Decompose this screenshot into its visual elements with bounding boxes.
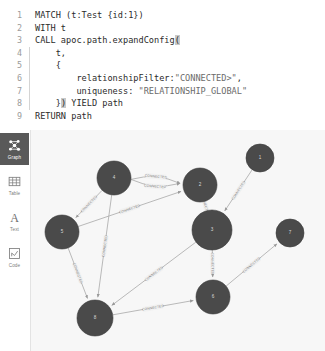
line-number: 5: [0, 59, 29, 72]
node-label: 4: [113, 175, 116, 180]
line-number: 3: [0, 34, 29, 47]
line-number: 1: [0, 9, 29, 22]
nodes-layer: 42135768: [45, 144, 304, 336]
line-number: 8: [0, 97, 29, 110]
code-token: }: [35, 98, 61, 108]
view-mode-sidebar: GraphTableATextCode: [0, 130, 31, 351]
node-label: 2: [199, 182, 202, 187]
graph-node[interactable]: 5: [45, 215, 79, 249]
graph-node[interactable]: 3: [192, 210, 232, 250]
sidebar-item-label: Code: [9, 263, 20, 268]
edge-label-group[interactable]: CONNECTED: [210, 252, 216, 275]
code-lines: 1MATCH (t:Test {id:1})2WITH t3CALL apoc.…: [0, 9, 325, 122]
edges-layer: [68, 170, 277, 315]
sidebar-item-table[interactable]: Table: [0, 169, 29, 201]
code-icon: [8, 247, 21, 261]
graph-visualization-canvas[interactable]: CONNECTEDCONNECTEDCONNECTEDCONNECTEDCONN…: [31, 130, 325, 351]
edge-label: CONNECTED: [242, 256, 262, 274]
graph-node[interactable]: 4: [97, 161, 131, 195]
edge-label: CONNECTED: [142, 304, 165, 312]
indent-guide: [29, 85, 30, 98]
code-line: 8 }) YIELD path: [0, 97, 325, 110]
graph-node[interactable]: 1: [246, 144, 274, 172]
edge-label-group[interactable]: CONNECTED: [241, 256, 262, 275]
node-label: 5: [61, 229, 64, 234]
edge-label: CONNECTED: [80, 194, 99, 213]
code-token: WITH t: [35, 23, 66, 33]
indent-guide: [29, 97, 30, 110]
sidebar-item-label: Text: [10, 227, 19, 232]
code-token: YIELD path: [66, 98, 123, 108]
edge-label-group[interactable]: CONNECTED: [145, 173, 168, 180]
code-line: 1MATCH (t:Test {id:1}): [0, 9, 325, 22]
code-token: CALL apoc.path.expandConfig: [35, 35, 175, 45]
line-number: 6: [0, 72, 29, 85]
code-token: relationshipFilter:: [35, 73, 175, 83]
edge-label-group[interactable]: CONNECTED: [143, 265, 164, 283]
edge-label-group[interactable]: CONNECTED: [144, 183, 167, 190]
node-label: 3: [211, 227, 214, 232]
code-line: 6 relationshipFilter:"CONNECTED>",: [0, 72, 325, 85]
sidebar-item-label: Graph: [8, 155, 21, 160]
code-text: {: [29, 59, 325, 72]
code-text: t,: [29, 47, 325, 60]
code-token: {: [35, 60, 61, 70]
edge-label-group[interactable]: CONNECTED: [142, 303, 165, 312]
code-text: RETURN path: [29, 110, 325, 123]
edge-label: CONNECTED: [118, 203, 141, 214]
graph-node[interactable]: 6: [196, 280, 230, 314]
code-line: 7 uniqueness: "RELATIONSHIP_GLOBAL": [0, 85, 325, 98]
bracket-highlight: (: [175, 35, 180, 45]
table-icon: [8, 175, 21, 189]
edge-label: CONNECTED: [72, 262, 84, 285]
code-line: 2WITH t: [0, 22, 325, 35]
code-text: }) YIELD path: [29, 97, 325, 110]
graph-icon: [8, 139, 21, 153]
query-editor[interactable]: 1MATCH (t:Test {id:1})2WITH t3CALL apoc.…: [0, 0, 325, 130]
code-text: WITH t: [29, 22, 325, 35]
edge-labels-layer: CONNECTEDCONNECTEDCONNECTEDCONNECTEDCONN…: [71, 173, 262, 312]
line-number: 9: [0, 110, 29, 123]
code-text: relationshipFilter:"CONNECTED>",: [29, 72, 325, 85]
code-text: MATCH (t:Test {id:1}): [29, 9, 325, 22]
edge-label: CONNECTED: [210, 252, 214, 275]
node-label: 7: [289, 230, 292, 235]
graph-node[interactable]: 7: [276, 219, 304, 247]
line-number: 2: [0, 22, 29, 35]
sidebar-item-text[interactable]: AText: [0, 205, 29, 237]
indent-guide: [29, 47, 30, 60]
code-token: uniqueness:: [35, 86, 138, 96]
edge-label-group[interactable]: CONNECTED: [79, 194, 98, 214]
code-text: uniqueness: "RELATIONSHIP_GLOBAL": [29, 85, 325, 98]
graph-svg: CONNECTEDCONNECTEDCONNECTEDCONNECTEDCONN…: [31, 130, 325, 351]
sidebar-item-graph[interactable]: Graph: [0, 133, 29, 165]
node-label: 8: [94, 315, 97, 320]
edge-label: CONNECTED: [144, 265, 165, 282]
graph-node[interactable]: 8: [77, 300, 113, 336]
code-line: 4 t,: [0, 47, 325, 60]
line-number: 4: [0, 47, 29, 60]
code-line: 3CALL apoc.path.expandConfig(: [0, 34, 325, 47]
edge-label-group[interactable]: CONNECTED: [230, 179, 247, 201]
string-literal: "CONNECTED>": [175, 73, 237, 83]
edge-label-group[interactable]: CONNECTED: [71, 262, 84, 285]
graph-node[interactable]: 2: [183, 168, 217, 202]
code-token: RETURN path: [35, 111, 92, 121]
code-token: MATCH (t:Test {id:1}): [35, 10, 144, 20]
indent-guide: [29, 72, 30, 85]
node-label: 1: [259, 155, 262, 160]
line-number: 7: [0, 85, 29, 98]
sidebar-item-code[interactable]: Code: [0, 241, 29, 273]
code-line: 5 {: [0, 59, 325, 72]
text-icon: A: [10, 211, 19, 225]
code-line: 9RETURN path: [0, 110, 325, 123]
string-literal: "RELATIONSHIP_GLOBAL": [138, 86, 247, 96]
node-label: 6: [212, 294, 215, 299]
code-text: CALL apoc.path.expandConfig(: [29, 34, 325, 47]
indent-guide: [29, 59, 30, 72]
edge-label-group[interactable]: CONNECTED: [118, 203, 141, 215]
edge-label-group[interactable]: CONNECTED: [101, 234, 109, 257]
edge-label: CONNECTED: [231, 180, 247, 201]
sidebar-item-label: Table: [9, 191, 20, 196]
code-token: t,: [35, 48, 66, 58]
